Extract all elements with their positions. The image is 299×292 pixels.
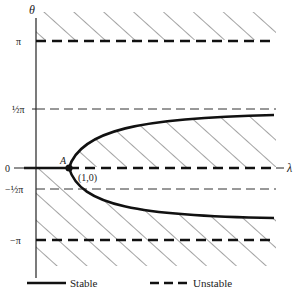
theta-axis-label: θ [29,3,35,17]
tick-zero: 0 [5,163,10,174]
hatched-region-upper-branch [69,116,276,167]
tick-neg-pi: −π [10,235,21,246]
tick-half-pi: ½π [12,104,25,115]
hatched-region-top [36,12,276,40]
lambda-axis-label: λ [286,161,292,175]
tick-pi: π [16,36,21,47]
tick-neg-half-pi: −½π [5,184,23,195]
bifurcation-point-A [65,164,72,171]
point-A-coords: (1,0) [78,172,97,184]
stability-diagram: θ λ π ½π 0 −½π −π A (1,0) Stable Unstabl… [0,0,299,292]
legend-unstable-label: Unstable [193,277,232,289]
point-A-label: A [59,155,67,166]
legend-stable-label: Stable [70,277,98,289]
